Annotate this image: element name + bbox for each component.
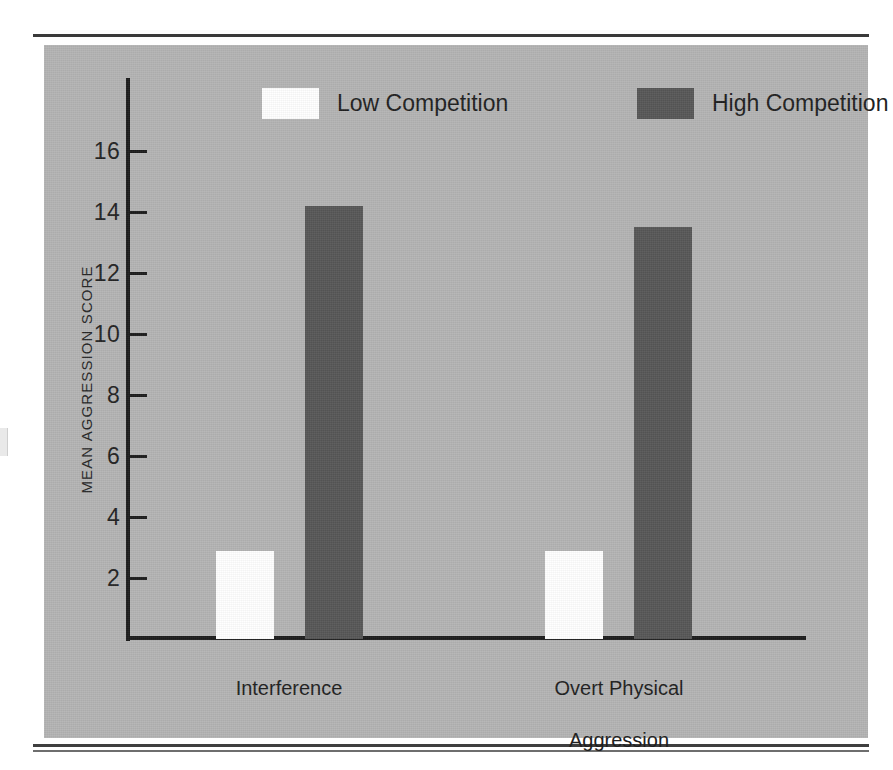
x-category-label-interference: Interference [169,649,409,701]
legend-item-high-competition[interactable]: High Competition [637,88,888,119]
y-tick-mark-2 [130,577,147,580]
bar-interference-low-competition[interactable] [216,551,274,639]
y-tick-label-8: 8 [107,382,120,409]
y-tick-label-12: 12 [94,260,120,287]
y-tick-mark-10 [130,333,147,336]
page-rule-bottom-primary [33,744,869,747]
legend-swatch-low-competition-icon [262,88,319,119]
bar-overt-physical-aggression-low-competition[interactable] [545,551,603,639]
y-tick-mark-12 [130,272,147,275]
y-tick-label-6: 6 [107,443,120,470]
page-rule-bottom-secondary [33,750,869,752]
y-tick-label-2: 2 [107,565,120,592]
y-tick-mark-16 [130,150,147,153]
x-category-label-overt-line2: Aggression [569,729,669,751]
bar-interference-high-competition[interactable] [305,206,363,639]
page-rule-top [33,34,869,37]
bar-chart-plot-area: Low Competition High Competition 2 4 6 8… [44,45,868,738]
y-tick-mark-6 [130,455,147,458]
y-tick-mark-8 [130,394,147,397]
figure-panel: Low Competition High Competition 2 4 6 8… [44,45,868,738]
legend-swatch-high-competition-icon [637,88,694,119]
y-tick-label-4: 4 [107,504,120,531]
y-tick-label-10: 10 [94,321,120,348]
y-tick-label-16: 16 [94,138,120,165]
legend-label-high-competition: High Competition [712,90,888,117]
legend-label-low-competition: Low Competition [337,90,508,117]
y-axis-line [126,78,130,641]
x-category-label-overt-physical-aggression: Overt Physical Aggression [499,649,739,753]
y-axis-title: MEAN AGGRESSION SCORE [78,274,95,494]
bar-overt-physical-aggression-high-competition[interactable] [634,227,692,639]
x-category-label-interference-line1: Interference [236,677,343,699]
legend-item-low-competition[interactable]: Low Competition [262,88,508,119]
scan-artifact-mark [0,428,8,456]
y-tick-mark-14 [130,211,147,214]
y-tick-mark-4 [130,516,147,519]
x-category-label-overt-line1: Overt Physical [555,677,684,699]
y-tick-label-14: 14 [94,199,120,226]
